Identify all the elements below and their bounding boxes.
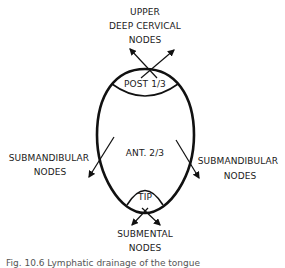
tip-label: TIP bbox=[132, 191, 158, 203]
figure-caption: Fig. 10.6 Lymphatic drainage of the tong… bbox=[6, 258, 200, 268]
arrow-upper-right bbox=[141, 50, 174, 78]
submental-label-line2: NODES bbox=[122, 242, 168, 254]
upper-nodes-label-line3: NODES bbox=[120, 34, 170, 46]
left-submandibular-label-line2: NODES bbox=[30, 166, 70, 178]
right-submandibular-label-line2: NODES bbox=[220, 170, 260, 182]
arrow-upper-left bbox=[130, 49, 157, 78]
submental-label-line1: SUBMENTAL bbox=[112, 228, 178, 240]
posterior-third-label: POST 1/3 bbox=[118, 78, 172, 90]
right-submandibular-label-line1: SUBMANDIBULAR bbox=[195, 155, 281, 167]
anterior-two-thirds-label: ANT. 2/3 bbox=[118, 147, 172, 159]
left-submandibular-label-line1: SUBMANDIBULAR bbox=[6, 152, 92, 164]
upper-nodes-label-line2: DEEP CERVICAL bbox=[100, 20, 190, 32]
arrow-left bbox=[89, 137, 114, 177]
upper-nodes-label-line1: UPPER bbox=[110, 6, 180, 18]
